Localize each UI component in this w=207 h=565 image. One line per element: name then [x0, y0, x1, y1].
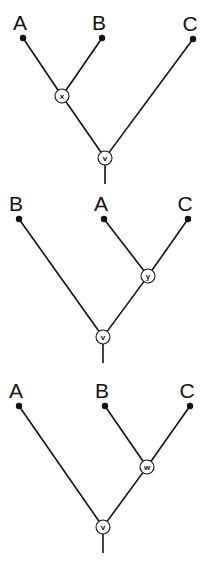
- tree-3: ABCwv: [9, 379, 195, 553]
- node-label-v: v: [101, 333, 106, 342]
- edge-b-x: [66, 38, 102, 90]
- leaf-dot-c: [190, 36, 196, 42]
- leaf-label-b: B: [9, 192, 23, 215]
- tree-1: ABCxv: [13, 11, 198, 184]
- phylogenetic-tree-diagram: ABCxvBACyvABCwv: [0, 0, 207, 565]
- edge-c-v: [109, 39, 193, 152]
- leaf-dot-c: [185, 216, 191, 222]
- leaf-dot-c: [187, 403, 193, 409]
- leaf-dot-a: [101, 216, 107, 222]
- leaf-label-c: C: [177, 192, 192, 215]
- leaf-dot-b: [102, 403, 108, 409]
- leaf-dot-a: [16, 403, 22, 409]
- edge-w-v: [107, 473, 143, 522]
- edge-c-w: [151, 406, 190, 461]
- leaf-label-b: B: [92, 11, 106, 34]
- edge-b-v: [19, 219, 99, 331]
- edge-y-v: [107, 282, 144, 332]
- edge-a-x: [23, 38, 58, 90]
- edge-x-v: [66, 102, 101, 152]
- leaf-label-b: B: [95, 379, 109, 402]
- node-label-v: v: [103, 154, 108, 163]
- node-label-w: w: [143, 463, 151, 472]
- leaf-dot-b: [99, 35, 105, 41]
- edge-b-w: [105, 406, 143, 461]
- leaf-label-c: C: [182, 12, 197, 35]
- node-label-v: v: [101, 523, 106, 532]
- leaf-label-a: A: [94, 192, 108, 215]
- leaf-dot-b: [16, 216, 22, 222]
- leaf-label-a: A: [9, 379, 23, 402]
- leaf-label-c: C: [179, 379, 194, 402]
- node-label-x: x: [60, 92, 65, 101]
- tree-2: BACyv: [9, 192, 193, 363]
- leaf-dot-a: [20, 35, 26, 41]
- leaf-label-a: A: [13, 11, 27, 34]
- node-label-y: y: [146, 272, 151, 281]
- edge-c-y: [152, 219, 188, 270]
- edge-a-y: [104, 219, 144, 270]
- edge-a-v: [19, 406, 99, 521]
